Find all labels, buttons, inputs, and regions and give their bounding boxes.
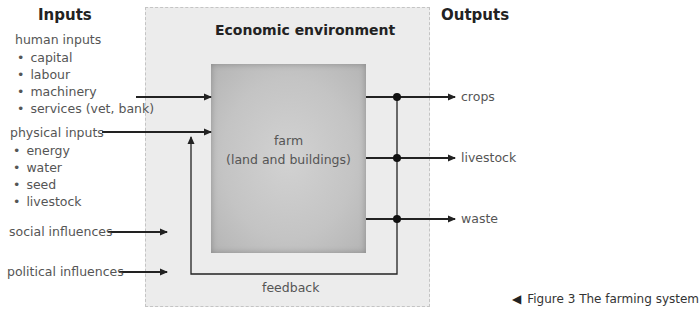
physical-input-item: water	[13, 160, 62, 175]
human-inputs-label: human inputs	[15, 32, 101, 47]
caption-triangle-icon: ◀	[512, 292, 521, 306]
physical-input-item: energy	[13, 143, 70, 158]
human-input-item: capital	[17, 50, 72, 65]
junction-dot-waste	[393, 215, 401, 223]
feedback-label: feedback	[262, 280, 319, 295]
feedback-loop	[191, 97, 397, 274]
output-waste: waste	[461, 211, 498, 226]
outputs-heading: Outputs	[441, 6, 509, 24]
inputs-heading: Inputs	[38, 6, 92, 24]
human-input-item: machinery	[17, 84, 97, 99]
human-input-item: labour	[17, 67, 70, 82]
social-influences-label: social influences	[9, 224, 113, 239]
political-influences-label: political influences	[7, 264, 124, 279]
output-livestock: livestock	[461, 150, 516, 165]
output-crops: crops	[461, 89, 495, 104]
caption-text: Figure 3 The farming system	[527, 292, 699, 306]
junction-dot-livestock	[393, 154, 401, 162]
human-input-item: services (vet, bank)	[17, 101, 154, 116]
figure-caption: ◀Figure 3 The farming system	[512, 292, 699, 306]
junction-dot-crops	[393, 93, 401, 101]
physical-input-item: seed	[13, 177, 56, 192]
physical-input-item: livestock	[13, 194, 82, 209]
physical-inputs-label: physical inputs	[10, 125, 104, 140]
